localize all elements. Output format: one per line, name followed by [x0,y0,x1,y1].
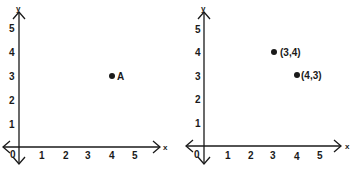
y-tick: 3 [9,71,15,82]
y-tick: 1 [9,119,15,130]
x-tick: 1 [39,150,45,161]
y-tick: 3 [195,71,201,82]
x-tick: 5 [317,150,323,161]
plot-left-svg: y x 0 1 2 3 4 5 1 2 3 4 5 A [0,0,176,171]
x-tick: 2 [248,150,254,161]
point-label: (4,3) [301,70,322,81]
y-tick: 2 [195,94,201,105]
x-tick: 3 [85,150,91,161]
origin-label: 0 [10,149,16,160]
x-axis-label: x [163,143,168,152]
y-tick: 5 [9,23,15,34]
x-tick: 2 [63,150,69,161]
y-tick: 1 [195,118,201,129]
y-tick: 4 [195,47,201,58]
y-tick: 2 [9,95,15,106]
point-label: A [117,71,124,82]
x-tick: 3 [270,150,276,161]
y-axis [13,12,25,164]
x-axis-label: x [345,142,350,151]
x-tick: 1 [225,150,231,161]
y-axis-label: y [16,4,21,13]
y-tick: 5 [195,24,201,35]
data-point [109,73,115,79]
plot-right-svg: y x 0 1 2 3 4 5 1 2 3 4 5 (3,4) (4,3) [176,0,353,171]
y-tick: 4 [9,47,15,58]
plot-right: y x 0 1 2 3 4 5 1 2 3 4 5 (3,4) (4,3) [176,0,353,171]
plot-left: y x 0 1 2 3 4 5 1 2 3 4 5 A [0,0,176,171]
data-point [294,72,300,78]
origin-label: 0 [194,149,200,160]
point-label: (3,4) [280,47,301,58]
x-tick: 4 [294,151,300,162]
x-tick: 4 [109,150,115,161]
x-tick: 5 [132,150,138,161]
y-axis-label: y [201,4,206,13]
data-point [271,49,277,55]
